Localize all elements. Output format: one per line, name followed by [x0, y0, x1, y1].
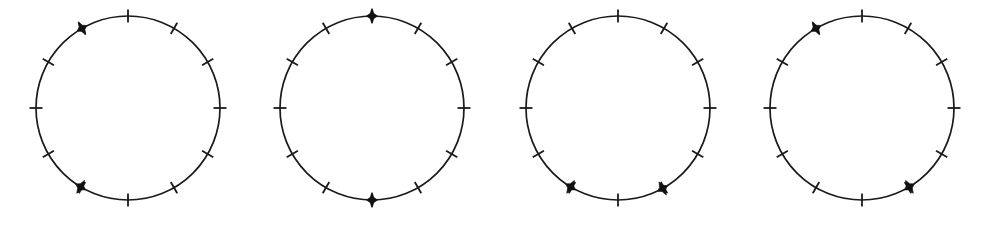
circle-1-marker-a	[77, 22, 87, 35]
figure-canvas	[0, 0, 989, 225]
circle-3-tick-120	[692, 151, 703, 158]
circle-4	[764, 10, 961, 207]
circle-2-tick-330	[323, 23, 330, 34]
circle-1	[30, 10, 227, 207]
circle-1-tick-30	[171, 23, 178, 34]
circle-4-tick-120	[936, 151, 947, 158]
circle-2-tick-210	[323, 182, 330, 193]
circle-4-tick-30	[905, 23, 912, 34]
circle-2-tick-30	[415, 23, 422, 34]
circle-4-tick-60	[936, 59, 947, 66]
circle-4-tick-210	[813, 182, 820, 193]
circle-3-tick-60	[692, 59, 703, 66]
circle-2-outline	[280, 16, 464, 200]
circle-2	[274, 9, 471, 208]
circle-2-tick-60	[446, 59, 457, 66]
circle-1-tick-120	[202, 151, 213, 158]
circle-4-marker-a	[811, 22, 821, 35]
circle-1-outline	[36, 16, 220, 200]
circle-4-tick-300	[777, 59, 788, 66]
circle-1-tick-60	[202, 59, 213, 66]
circle-3-tick-240	[533, 151, 544, 158]
circle-3	[520, 10, 717, 207]
circle-3-outline	[526, 16, 710, 200]
circle-2-marker-b	[367, 193, 378, 208]
circle-4-outline	[770, 16, 954, 200]
circle-2-tick-120	[446, 151, 457, 158]
circle-2-marker-a	[367, 9, 378, 24]
circle-3-tick-300	[533, 59, 544, 66]
circle-1-tick-240	[43, 151, 54, 158]
circle-2-tick-150	[415, 182, 422, 193]
circles-diagram	[0, 0, 989, 225]
circle-3-tick-330	[569, 23, 576, 34]
circle-4-tick-240	[777, 151, 788, 158]
circle-1-tick-150	[171, 182, 178, 193]
circle-2-tick-240	[287, 151, 298, 158]
circle-2-tick-300	[287, 59, 298, 66]
circle-1-tick-300	[43, 59, 54, 66]
circle-3-tick-30	[661, 23, 668, 34]
